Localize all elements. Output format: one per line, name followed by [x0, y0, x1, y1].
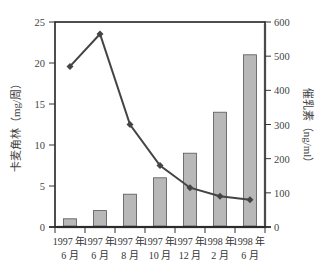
right-tick-label: 0 — [274, 222, 279, 233]
combo-chart: 0510152025 0100200300400500600 1997 年6 月… — [0, 0, 326, 275]
x-tick-label-month: 6 月 — [241, 250, 259, 261]
left-tick-label: 20 — [35, 58, 46, 69]
x-tick-label-month: 2 月 — [211, 250, 229, 261]
x-tick-label-year: 1997 年 — [83, 235, 116, 247]
left-tick-label: 25 — [35, 17, 46, 28]
x-tick-label-month: 10 月 — [149, 250, 172, 261]
left-tick-label: 15 — [35, 99, 46, 110]
right-tick-label: 100 — [274, 188, 290, 199]
left-axis-title: 卡麦角林（mg/周） — [9, 78, 22, 172]
right-y-axis: 0100200300400500600 — [265, 17, 290, 233]
x-tick-label-year: 1997 年 — [173, 235, 206, 247]
right-axis-title: 催乳素（ng/ml） — [302, 88, 315, 169]
left-tick-label: 0 — [40, 222, 45, 233]
left-tick-label: 5 — [40, 181, 45, 192]
x-tick-label-month: 8 月 — [121, 250, 139, 261]
bar — [214, 112, 227, 226]
right-tick-label: 600 — [274, 17, 290, 28]
bar — [124, 194, 137, 226]
x-tick-label-month: 6 月 — [91, 250, 109, 261]
right-tick-label: 500 — [274, 51, 290, 62]
bar — [64, 219, 77, 226]
x-tick-label-month: 6 月 — [61, 250, 79, 261]
left-y-axis: 0510152025 — [35, 17, 56, 233]
left-tick-label: 10 — [35, 140, 46, 151]
right-tick-label: 200 — [274, 154, 290, 165]
x-tick-label-year: 1997 年 — [53, 235, 86, 247]
right-tick-label: 400 — [274, 85, 290, 96]
x-tick-label-year: 1998 年 — [203, 235, 236, 247]
bar — [154, 178, 167, 226]
x-tick-label-year: 1997 年 — [113, 235, 146, 247]
bar — [94, 211, 107, 226]
right-tick-label: 300 — [274, 120, 290, 131]
x-tick-label-year: 1998 年 — [233, 235, 266, 247]
x-tick-label-year: 1997 年 — [143, 235, 176, 247]
x-tick-label-month: 12 月 — [179, 250, 202, 261]
x-axis: 1997 年6 月1997 年6 月1997 年8 月1997 年10 月199… — [49, 227, 271, 261]
